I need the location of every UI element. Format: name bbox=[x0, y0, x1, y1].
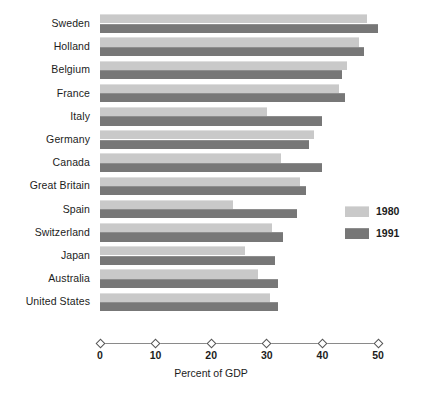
bar-1980 bbox=[100, 107, 267, 116]
chart-row: United States bbox=[0, 290, 422, 313]
x-axis-tick-label: 10 bbox=[136, 349, 176, 361]
category-label: Italy bbox=[0, 105, 90, 128]
chart-row: France bbox=[0, 82, 422, 105]
category-label: France bbox=[0, 82, 90, 105]
diamond-marker-icon bbox=[373, 338, 383, 348]
chart-row: Japan bbox=[0, 244, 422, 267]
diamond-marker-icon bbox=[317, 338, 327, 348]
x-axis-line bbox=[100, 343, 378, 344]
bar-1991 bbox=[100, 70, 342, 79]
chart-row: Holland bbox=[0, 35, 422, 58]
category-label: Japan bbox=[0, 244, 90, 267]
category-label: Canada bbox=[0, 151, 90, 174]
category-label: Australia bbox=[0, 267, 90, 290]
x-axis-tick bbox=[317, 338, 327, 348]
bar-1991 bbox=[100, 163, 322, 172]
category-label: Germany bbox=[0, 128, 90, 151]
category-label: Sweden bbox=[0, 12, 90, 35]
chart-row: Canada bbox=[0, 151, 422, 174]
category-label: Belgium bbox=[0, 58, 90, 81]
chart-row: Sweden bbox=[0, 12, 422, 35]
bar-1991 bbox=[100, 232, 283, 241]
bar-1980 bbox=[100, 293, 270, 302]
x-axis-tick bbox=[95, 338, 105, 348]
bar-1980 bbox=[100, 130, 314, 139]
diamond-marker-icon bbox=[206, 338, 216, 348]
x-axis-tick bbox=[206, 338, 216, 348]
bar-1991 bbox=[100, 279, 278, 288]
bar-1980 bbox=[100, 177, 300, 186]
bar-1991 bbox=[100, 24, 378, 33]
x-axis-tick bbox=[373, 338, 383, 348]
bar-1991 bbox=[100, 186, 306, 195]
category-label: Spain bbox=[0, 198, 90, 221]
bar-1980 bbox=[100, 153, 281, 162]
x-axis-tick bbox=[262, 338, 272, 348]
category-label: United States bbox=[0, 290, 90, 313]
chart-row: Germany bbox=[0, 128, 422, 151]
bar-1980 bbox=[100, 223, 272, 232]
bar-1980 bbox=[100, 246, 245, 255]
x-axis-tick-label: 20 bbox=[191, 349, 231, 361]
chart-row: Australia bbox=[0, 267, 422, 290]
chart-row: Great Britain bbox=[0, 174, 422, 197]
x-axis-tick-label: 50 bbox=[358, 349, 398, 361]
bar-1980 bbox=[100, 14, 367, 23]
x-axis-title: Percent of GDP bbox=[0, 367, 422, 379]
legend-label-1980: 1980 bbox=[376, 203, 399, 219]
x-axis-tick-label: 40 bbox=[302, 349, 342, 361]
diamond-marker-icon bbox=[262, 338, 272, 348]
category-label: Switzerland bbox=[0, 221, 90, 244]
bar-1980 bbox=[100, 200, 233, 209]
bar-1980 bbox=[100, 61, 347, 70]
legend-swatch-1991 bbox=[345, 228, 369, 239]
bar-1991 bbox=[100, 302, 278, 311]
category-label: Holland bbox=[0, 35, 90, 58]
chart-row: Italy bbox=[0, 105, 422, 128]
bar-1991 bbox=[100, 47, 364, 56]
diamond-marker-icon bbox=[95, 338, 105, 348]
legend-swatch-1980 bbox=[345, 206, 369, 217]
grouped-bar-chart: SwedenHollandBelgiumFranceItalyGermanyCa… bbox=[0, 0, 422, 399]
x-axis-tick-label: 30 bbox=[247, 349, 287, 361]
bar-1991 bbox=[100, 256, 275, 265]
x-axis-tick bbox=[151, 338, 161, 348]
chart-row: Belgium bbox=[0, 58, 422, 81]
bar-1991 bbox=[100, 209, 297, 218]
legend-label-1991: 1991 bbox=[376, 225, 399, 241]
diamond-marker-icon bbox=[151, 338, 161, 348]
category-label: Great Britain bbox=[0, 174, 90, 197]
bar-1991 bbox=[100, 140, 309, 149]
bar-1980 bbox=[100, 269, 258, 278]
x-axis-tick-label: 0 bbox=[80, 349, 120, 361]
bar-1980 bbox=[100, 84, 339, 93]
bar-1980 bbox=[100, 37, 359, 46]
bar-1991 bbox=[100, 93, 345, 102]
bar-1991 bbox=[100, 116, 322, 125]
